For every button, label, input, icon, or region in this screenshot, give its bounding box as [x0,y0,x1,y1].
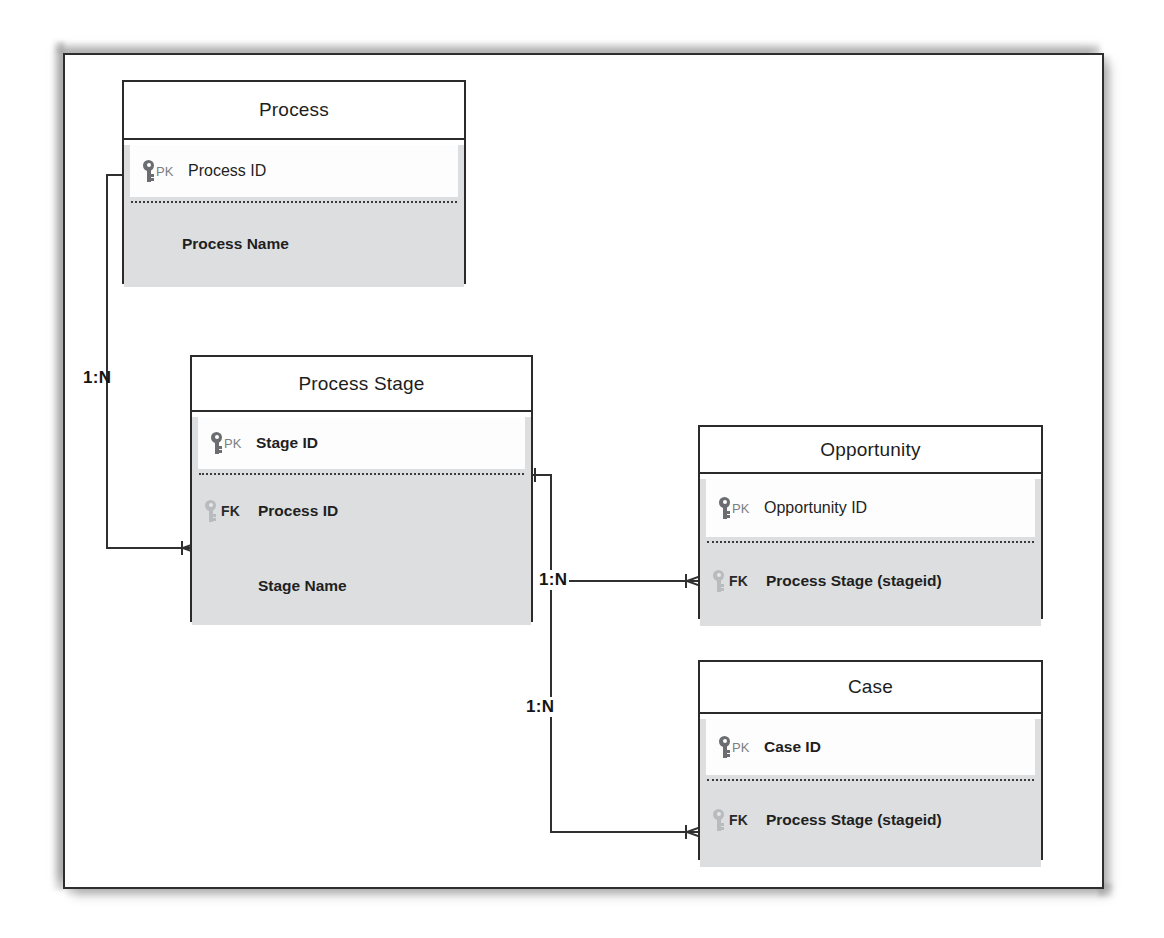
er-diagram-canvas: 1:N 1:N 1:N Process PK [0,0,1164,938]
key-icon [712,570,725,592]
entity-process-body: PK Process ID Process Name [124,145,464,287]
key-icon [210,432,223,454]
cardinality-label-process-to-stage: 1:N [83,368,111,388]
pk-label: Stage ID [256,434,318,452]
pk-tag: PK [732,740,750,755]
pk-key-icon-wrap: PK [706,497,764,519]
relationship-stage-to-case-many-tick [685,825,687,839]
entity-case-title: Case [700,662,1041,712]
entity-opportunity-header: Opportunity [700,427,1041,474]
entity-case-pk-row[interactable]: PK Case ID [706,719,1035,775]
entity-opportunity-title: Opportunity [700,427,1041,472]
entity-process-stage-fk-row[interactable]: FK Process ID [192,475,531,547]
pk-key-icon-wrap: PK [130,160,188,182]
key-icon [712,809,725,831]
entity-case-body: PK Case ID FK Process Stage (stageid) [700,719,1041,867]
pk-label: Opportunity ID [764,499,867,517]
entity-opportunity-body: PK Opportunity ID FK Process Stage (stag… [700,479,1041,626]
entity-process[interactable]: Process PK Process ID Process Name [122,80,466,284]
entity-process-stage-body: PK Stage ID FK Process ID Stage Name [192,417,531,625]
pk-tag: PK [156,164,174,179]
attr-label: Stage Name [258,577,347,595]
relationship-process-to-stage-many-tick [181,541,183,555]
relationship-process-to-stage-vline [106,175,108,548]
entity-opportunity-pk-row[interactable]: PK Opportunity ID [706,479,1035,537]
entity-process-pk-row[interactable]: PK Process ID [130,145,458,197]
entity-process-header: Process [124,82,464,140]
entity-process-stage-attr-row[interactable]: Stage Name [192,547,531,625]
pk-label: Case ID [764,738,821,756]
fk-label: Process Stage (stageid) [766,811,942,829]
key-icon [204,500,217,522]
key-icon [718,497,731,519]
entity-opportunity[interactable]: Opportunity PK Opportunity ID [698,425,1043,619]
pk-key-icon-wrap: PK [706,736,764,758]
entity-process-stage-pk-row[interactable]: PK Stage ID [198,417,525,469]
fk-key-icon-wrap: FK [700,809,758,831]
key-icon [718,736,731,758]
entity-case[interactable]: Case PK Case ID [698,660,1043,860]
fk-label: Process Stage (stageid) [766,572,942,590]
relationship-stage-trunk-hline [532,474,552,476]
entity-opportunity-fk-row[interactable]: FK Process Stage (stageid) [700,543,1041,619]
relationship-stage-to-case-hline [550,831,700,833]
fk-key-icon-wrap: FK [700,570,758,592]
frame-shadow-top [56,41,1100,53]
pk-tag: PK [224,436,242,451]
fk-tag: FK [221,503,240,519]
entity-process-stage-title: Process Stage [192,357,531,410]
entity-process-attr-row[interactable]: Process Name [124,203,464,285]
relationship-stage-to-opportunity-hline [550,580,700,582]
pk-key-icon-wrap: PK [198,432,256,454]
relationship-stage-to-opportunity-many-tick [685,574,687,588]
fk-label: Process ID [258,502,338,520]
cardinality-label-stage-to-case: 1:N [524,697,556,717]
pk-label: Process ID [188,162,266,180]
key-icon [142,160,155,182]
entity-process-stage-header: Process Stage [192,357,531,412]
cardinality-label-stage-to-opportunity: 1:N [537,570,569,590]
fk-key-icon-wrap: FK [192,500,250,522]
entity-process-stage[interactable]: Process Stage PK Stage ID [190,355,533,622]
entity-process-title: Process [124,82,464,138]
entity-case-fk-row[interactable]: FK Process Stage (stageid) [700,781,1041,859]
relationship-stage-trunk-vline [550,474,552,832]
attr-label: Process Name [182,235,289,253]
entity-case-header: Case [700,662,1041,714]
fk-tag: FK [729,573,748,589]
fk-tag: FK [729,812,748,828]
pk-tag: PK [732,501,750,516]
